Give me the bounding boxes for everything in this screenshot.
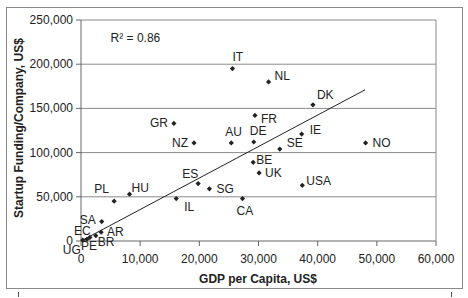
y-tick-label: 200,000	[30, 57, 74, 71]
data-points: ITNLDKFRGRIEDEAUNZNOSEBEUKESUSASGHUILCAP…	[63, 50, 391, 257]
data-point-marker	[277, 146, 282, 151]
data-point-label: SG	[216, 182, 233, 196]
data-point-label: AU	[225, 125, 242, 139]
data-point-marker	[363, 140, 368, 145]
trendline	[81, 90, 365, 241]
data-point-marker	[252, 113, 257, 118]
data-point-marker	[230, 66, 235, 71]
x-tick-label: 50,000	[358, 252, 395, 266]
data-point-marker	[196, 181, 201, 186]
x-tick-label: 20,000	[181, 252, 218, 266]
data-point-marker	[266, 79, 271, 84]
data-point-label: EC	[74, 224, 91, 238]
data-point-marker	[207, 186, 212, 191]
data-point-marker	[310, 102, 315, 107]
data-point-label: DK	[317, 88, 334, 102]
y-axis-title: Startup Funding/Company, US$	[12, 38, 26, 218]
corner-mark-left	[18, 292, 19, 297]
x-axis-title: GDP per Capita, US$	[199, 272, 317, 286]
data-point-marker	[229, 140, 234, 145]
data-point-label: IL	[184, 200, 194, 214]
corner-mark-right	[451, 292, 452, 297]
data-point-marker	[251, 139, 256, 144]
scatter-chart: 050,000100,000150,000200,000250,000 010,…	[0, 0, 468, 298]
data-point-label: SE	[287, 136, 303, 150]
data-point-marker	[99, 219, 104, 224]
data-point-label: UK	[265, 166, 282, 180]
regression-line	[81, 90, 365, 241]
data-point-marker	[171, 121, 176, 126]
data-point-label: PL	[94, 182, 109, 196]
r-squared-annotation: R² = 0.86	[111, 31, 161, 45]
data-point-label: IE	[310, 123, 321, 137]
x-tick-label: 10,000	[122, 252, 159, 266]
x-tick-label: 60,000	[418, 252, 455, 266]
y-tick-label: 50,000	[36, 190, 73, 204]
data-point-marker	[191, 140, 196, 145]
data-point-label: NZ	[172, 136, 188, 150]
data-point-label: GR	[150, 116, 168, 130]
data-point-label: HU	[132, 181, 149, 195]
x-tick-label: 40,000	[299, 252, 336, 266]
y-tick-label: 150,000	[30, 101, 74, 115]
data-point-marker	[251, 160, 256, 165]
gridlines	[81, 20, 436, 197]
data-point-marker	[256, 170, 261, 175]
data-point-marker	[112, 199, 117, 204]
data-point-label: ES	[182, 167, 198, 181]
data-point-label: DE	[250, 124, 267, 138]
data-point-label: NO	[373, 136, 391, 150]
data-point-label: BR	[98, 235, 115, 249]
data-point-label: NL	[275, 69, 291, 83]
y-tick-labels: 050,000100,000150,000200,000250,000	[30, 13, 74, 248]
x-tick-labels: 010,00020,00030,00040,00050,00060,000	[78, 252, 455, 266]
x-tick-label: 30,000	[240, 252, 277, 266]
y-tick-label: 100,000	[30, 146, 74, 160]
y-tick-label: 250,000	[30, 13, 74, 27]
data-point-label: USA	[306, 174, 331, 188]
data-point-label: CA	[237, 204, 254, 218]
data-point-label: IT	[232, 50, 243, 64]
data-point-label: UG	[63, 243, 81, 257]
data-point-marker	[300, 183, 305, 188]
